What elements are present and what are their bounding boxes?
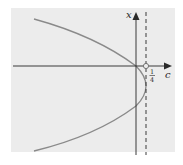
fraction-denominator: 4 xyxy=(150,76,154,84)
c-axis-label: c xyxy=(165,69,171,80)
parabola-figure: x c 1 4 xyxy=(0,0,183,165)
open-circle-point xyxy=(143,63,148,68)
x-axis-label: x xyxy=(126,9,132,20)
